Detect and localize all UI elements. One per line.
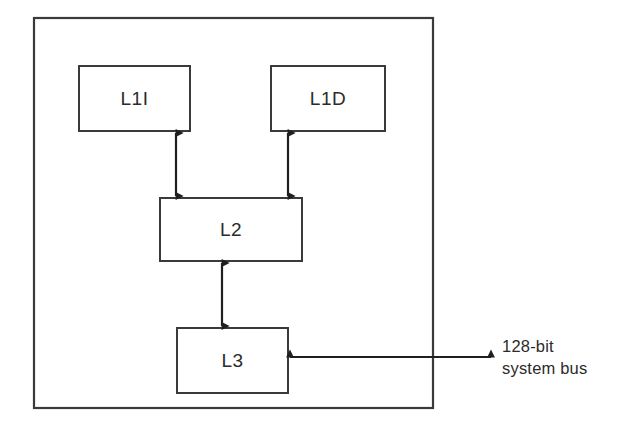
cache-box-l2: L2 (160, 198, 302, 261)
cache-box-l3: L3 (177, 328, 288, 393)
system-bus-label-line1: 128-bit (502, 335, 587, 357)
cache-hierarchy-diagram: L1I L1D L2 L3 128-bit system bus (0, 0, 628, 426)
cache-box-l1i: L1I (79, 66, 190, 131)
cache-box-l2-label: L2 (220, 219, 242, 240)
cache-box-l3-label: L3 (221, 350, 243, 371)
cache-box-l1d: L1D (271, 66, 385, 131)
system-bus-label: 128-bit system bus (502, 335, 587, 380)
cache-box-l1i-label: L1I (121, 88, 149, 109)
system-bus-label-line2: system bus (502, 357, 587, 379)
cache-box-l1d-label: L1D (310, 88, 346, 109)
